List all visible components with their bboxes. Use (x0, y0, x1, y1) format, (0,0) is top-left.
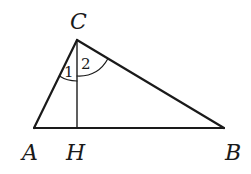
label-h: H (65, 140, 86, 165)
side-ca (34, 40, 77, 128)
label-c: C (70, 9, 87, 34)
angle-2-label: 2 (81, 55, 91, 73)
angle-1-label: 1 (64, 63, 74, 81)
side-bc (77, 40, 224, 128)
triangle-figure: C A H B 1 2 (0, 0, 251, 174)
label-b: B (224, 140, 241, 165)
label-a: A (20, 140, 38, 165)
geometry-diagram: C A H B 1 2 (0, 0, 251, 174)
